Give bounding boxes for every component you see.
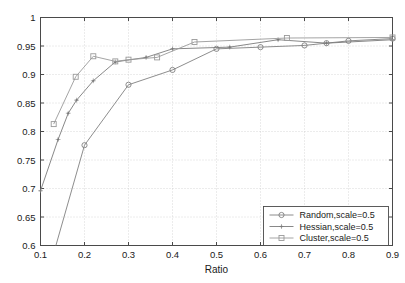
- y-axis-tick-label: 0.6: [22, 240, 35, 251]
- y-axis-tick-label: 0.95: [17, 41, 36, 52]
- y-axis-tick-label: 1: [30, 12, 35, 23]
- x-axis-tick-label: 0.5: [210, 249, 223, 260]
- x-axis-title: Ratio: [205, 264, 229, 275]
- y-axis-tick-label: 0.8: [22, 126, 35, 137]
- x-axis-tick-label: 0.7: [298, 249, 311, 260]
- legend-label-1: Hessian,scale=0.5: [300, 222, 374, 232]
- y-axis-tick-label: 0.65: [17, 212, 36, 223]
- y-axis-tick-label: 0.9: [22, 69, 35, 80]
- x-axis-tick-label: 0.4: [166, 249, 179, 260]
- x-axis-tick-label: 0.9: [386, 249, 399, 260]
- legend-label-2: Cluster,scale=0.5: [300, 233, 369, 243]
- x-axis-tick-label: 0.3: [122, 249, 135, 260]
- series-line-2: [54, 37, 393, 124]
- x-axis-tick-label: 0.2: [78, 249, 91, 260]
- legend-label-0: Random,scale=0.5: [300, 210, 375, 220]
- figure-canvas: 0.10.20.30.40.50.60.70.80.90.60.650.70.7…: [0, 0, 405, 283]
- y-axis-tick-label: 0.7: [22, 183, 35, 194]
- x-axis-tick-label: 0.1: [34, 249, 47, 260]
- y-axis-tick-label: 0.85: [17, 98, 36, 109]
- x-axis-tick-label: 0.6: [254, 249, 267, 260]
- y-axis-tick-label: 0.75: [17, 155, 36, 166]
- chart-plot: 0.10.20.30.40.50.60.70.80.90.60.650.70.7…: [0, 0, 405, 283]
- x-axis-tick-label: 0.8: [342, 249, 355, 260]
